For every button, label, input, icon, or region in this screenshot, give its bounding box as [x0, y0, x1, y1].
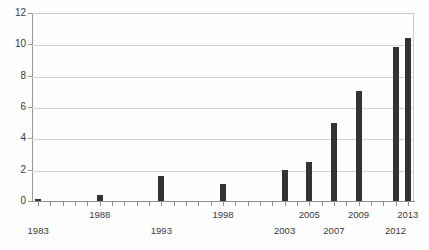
x-tick-label: 2009	[348, 210, 369, 220]
x-tick-label: 2007	[323, 226, 344, 236]
y-tick-label: 2	[4, 165, 26, 175]
y-tick-mark	[28, 76, 32, 77]
x-tick-label: 2013	[397, 210, 418, 220]
cut-off-title	[96, 0, 156, 5]
x-tick-mark	[124, 202, 125, 206]
bar	[405, 38, 411, 201]
y-tick-label: 4	[4, 133, 26, 143]
x-tick-mark	[149, 202, 150, 206]
x-tick-mark	[100, 202, 101, 206]
x-tick-mark	[161, 202, 162, 206]
bar	[393, 47, 399, 201]
x-tick-mark	[359, 202, 360, 206]
x-tick-mark	[223, 202, 224, 206]
y-tick-mark	[28, 170, 32, 171]
x-tick-mark	[396, 202, 397, 206]
x-tick-mark	[408, 202, 409, 206]
x-tick-mark	[75, 202, 76, 206]
x-tick-mark	[186, 202, 187, 206]
x-tick-mark	[334, 202, 335, 206]
y-tick-mark	[28, 138, 32, 139]
x-tick-mark	[346, 202, 347, 206]
x-tick-label: 2003	[274, 226, 295, 236]
y-tick-mark	[28, 44, 32, 45]
y-tick-mark	[28, 201, 32, 202]
x-tick-mark	[322, 202, 323, 206]
y-tick-label: 0	[4, 196, 26, 206]
x-tick-mark	[272, 202, 273, 206]
x-tick-mark	[112, 202, 113, 206]
y-tick-label: 10	[4, 39, 26, 49]
x-tick-mark	[63, 202, 64, 206]
y-tick-label: 8	[4, 71, 26, 81]
x-tick-label: 1998	[212, 210, 233, 220]
y-tick-mark	[28, 13, 32, 14]
x-tick-mark	[285, 202, 286, 206]
x-tick-mark	[137, 202, 138, 206]
y-tick-label: 6	[4, 102, 26, 112]
bars-layer	[32, 13, 414, 201]
bar	[356, 91, 362, 201]
bar	[35, 199, 41, 201]
x-tick-mark	[309, 202, 310, 206]
y-tick-mark	[28, 107, 32, 108]
bar	[282, 170, 288, 201]
x-tick-mark	[248, 202, 249, 206]
x-tick-mark	[383, 202, 384, 206]
x-tick-label: 1993	[151, 226, 172, 236]
x-tick-mark	[211, 202, 212, 206]
bar-chart: 024681012 198319881993199820032005200720…	[0, 0, 429, 250]
bar	[97, 195, 103, 201]
x-tick-mark	[235, 202, 236, 206]
x-tick-mark	[174, 202, 175, 206]
x-tick-label: 1983	[28, 226, 49, 236]
x-tick-mark	[297, 202, 298, 206]
x-tick-mark	[371, 202, 372, 206]
x-tick-label: 2005	[299, 210, 320, 220]
bar	[220, 184, 226, 201]
x-tick-mark	[87, 202, 88, 206]
x-tick-mark	[198, 202, 199, 206]
bar	[306, 162, 312, 201]
y-axis: 024681012	[0, 0, 26, 250]
bar	[158, 176, 164, 201]
bar	[331, 123, 337, 201]
x-tick-label: 2012	[385, 226, 406, 236]
x-tick-mark	[260, 202, 261, 206]
x-tick-label: 1988	[89, 210, 110, 220]
y-tick-label: 12	[4, 8, 26, 18]
x-tick-mark	[50, 202, 51, 206]
x-tick-mark	[38, 202, 39, 206]
